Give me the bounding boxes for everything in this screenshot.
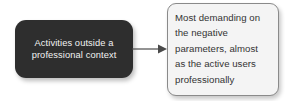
connector-arrow <box>132 38 168 60</box>
arrow-head <box>158 45 167 54</box>
arrow-icon <box>132 38 168 60</box>
node-most-demanding-on-negative-parameters[interactable]: Most demanding on the negative parameter… <box>167 3 279 96</box>
node-label: Most demanding on the negative parameter… <box>175 10 272 87</box>
node-activities-outside-professional-context[interactable]: Activities outside a professional contex… <box>15 20 133 78</box>
flow-diagram: Activities outside a professional contex… <box>0 0 289 101</box>
node-label: Activities outside a professional contex… <box>32 37 117 62</box>
